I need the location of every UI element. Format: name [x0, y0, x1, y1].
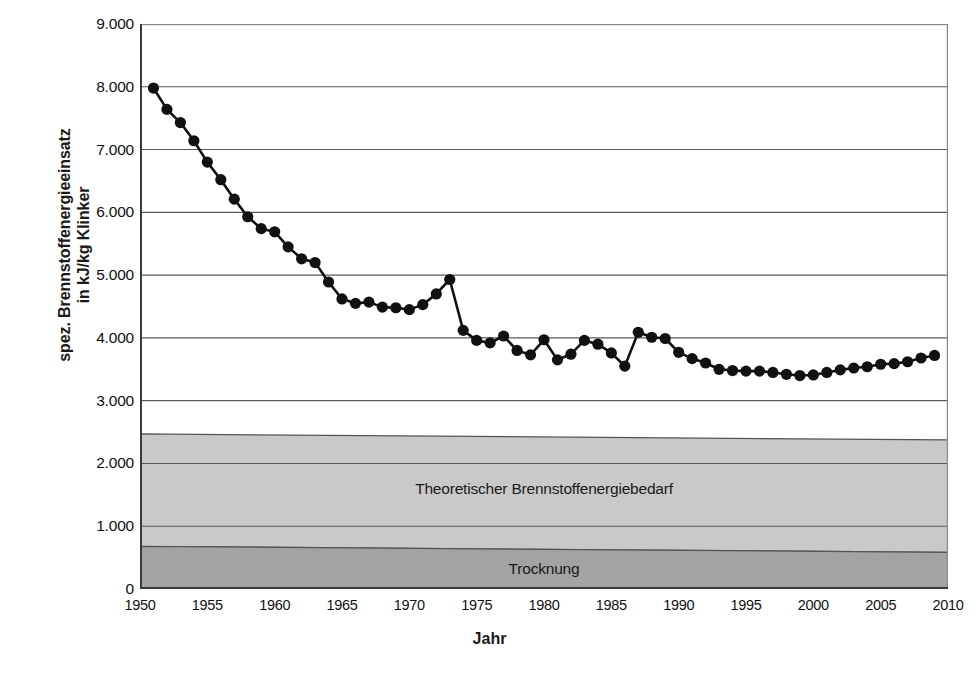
data-point-1953 — [175, 117, 186, 128]
data-point-1958 — [242, 211, 253, 222]
data-point-1980 — [538, 334, 549, 345]
data-point-1951 — [148, 82, 159, 93]
data-point-1955 — [202, 157, 213, 168]
y-tick-label-1000: 1.000 — [62, 517, 134, 535]
data-point-1959 — [256, 223, 267, 234]
data-point-1954 — [188, 135, 199, 146]
data-point-1974 — [458, 325, 469, 336]
y-tick-label-3000: 3.000 — [62, 392, 134, 410]
x-tick-label-1955: 1955 — [192, 597, 223, 613]
data-point-1997 — [767, 367, 778, 378]
data-point-1982 — [565, 349, 576, 360]
data-point-1960 — [269, 226, 280, 237]
data-point-1995 — [740, 366, 751, 377]
x-tick-label-1990: 1990 — [663, 597, 694, 613]
x-tick-label-1975: 1975 — [461, 597, 492, 613]
data-point-1987 — [633, 327, 644, 338]
data-point-2008 — [915, 352, 926, 363]
chart-figure: spez. Brennstoffenergieeinsatz in kJ/kg … — [0, 0, 979, 677]
y-tick-label-8000: 8.000 — [62, 78, 134, 96]
y-tick-label-4000: 4.000 — [62, 329, 134, 347]
series-markers-group — [148, 82, 940, 381]
data-point-1966 — [350, 298, 361, 309]
data-point-1986 — [619, 361, 630, 372]
data-point-2007 — [902, 356, 913, 367]
data-point-1975 — [471, 335, 482, 346]
x-tick-label-2000: 2000 — [798, 597, 829, 613]
data-point-2000 — [808, 369, 819, 380]
x-tick-label-1965: 1965 — [326, 597, 357, 613]
y-tick-label-6000: 6.000 — [62, 203, 134, 221]
y-axis-title-wrap: spez. Brennstoffenergieeinsatz in kJ/kg … — [0, 0, 60, 600]
data-point-2001 — [821, 367, 832, 378]
data-point-1965 — [336, 293, 347, 304]
data-point-1994 — [727, 365, 738, 376]
data-point-1993 — [713, 364, 724, 375]
band-label-trocknung: Trocknung — [140, 560, 948, 578]
data-point-1985 — [606, 347, 617, 358]
plot-area: Theoretischer Brennstoffenergiebedarf Tr… — [140, 24, 948, 589]
data-point-1979 — [525, 349, 536, 360]
y-tick-label-5000: 5.000 — [62, 266, 134, 284]
data-point-1991 — [687, 353, 698, 364]
data-point-1961 — [283, 241, 294, 252]
data-point-1962 — [296, 253, 307, 264]
data-point-1978 — [511, 345, 522, 356]
data-point-1996 — [754, 366, 765, 377]
x-axis-tick-labels: 1950195519601965197019751980198519901995… — [0, 597, 979, 621]
data-point-1981 — [552, 354, 563, 365]
data-point-1989 — [660, 333, 671, 344]
data-point-1977 — [498, 330, 509, 341]
data-point-1988 — [646, 332, 657, 343]
data-point-1967 — [363, 297, 374, 308]
y-axis-tick-labels: 01.0002.0003.0004.0005.0006.0007.0008.00… — [58, 0, 134, 600]
data-point-1963 — [309, 257, 320, 268]
x-tick-label-1985: 1985 — [596, 597, 627, 613]
plot-svg — [140, 24, 948, 589]
data-point-2004 — [862, 361, 873, 372]
data-point-1968 — [377, 302, 388, 313]
y-tick-label-0: 0 — [62, 580, 134, 598]
y-tick-label-9000: 9.000 — [62, 15, 134, 33]
x-tick-label-1980: 1980 — [528, 597, 559, 613]
data-point-1952 — [161, 104, 172, 115]
x-tick-label-1960: 1960 — [259, 597, 290, 613]
y-tick-label-7000: 7.000 — [62, 141, 134, 159]
x-tick-label-2005: 2005 — [865, 597, 896, 613]
x-tick-label-1950: 1950 — [124, 597, 155, 613]
data-point-1969 — [390, 302, 401, 313]
data-point-1983 — [579, 335, 590, 346]
data-point-1998 — [781, 369, 792, 380]
data-point-2009 — [929, 350, 940, 361]
y-tick-label-2000: 2.000 — [62, 454, 134, 472]
x-tick-label-2010: 2010 — [932, 597, 963, 613]
data-point-1970 — [404, 304, 415, 315]
data-point-2003 — [848, 362, 859, 373]
band-label-theoretischer-brennstoffenergiebedarf: Theoretischer Brennstoffenergiebedarf — [140, 480, 948, 498]
x-axis-title: Jahr — [0, 630, 979, 648]
data-point-2006 — [889, 358, 900, 369]
data-point-1972 — [431, 288, 442, 299]
data-point-2002 — [835, 364, 846, 375]
data-point-1990 — [673, 347, 684, 358]
data-point-1956 — [215, 174, 226, 185]
x-tick-label-1970: 1970 — [394, 597, 425, 613]
data-point-1973 — [444, 274, 455, 285]
data-point-1957 — [229, 194, 240, 205]
x-tick-label-1995: 1995 — [730, 597, 761, 613]
data-point-1971 — [417, 299, 428, 310]
data-point-2005 — [875, 359, 886, 370]
data-point-1964 — [323, 276, 334, 287]
data-point-1984 — [592, 339, 603, 350]
data-point-1999 — [794, 370, 805, 381]
data-point-1992 — [700, 357, 711, 368]
data-point-1976 — [485, 337, 496, 348]
